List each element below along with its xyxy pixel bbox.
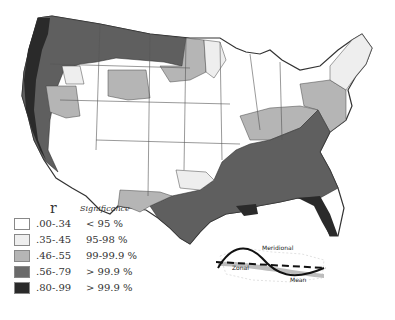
legend-significance-label: Significance [80, 204, 130, 213]
meridional-flow-line [218, 249, 324, 276]
legend-row: .35-.45 95-98 % [14, 234, 144, 250]
legend-row: .46-.55 99-99.9 % [14, 250, 144, 266]
legend-range: .56-.79 [36, 266, 71, 277]
legend-significance: 99-99.9 % [86, 250, 137, 261]
legend-significance: > 99.9 % [86, 266, 133, 277]
region-new-england-light [330, 34, 372, 90]
legend-range: .35-.45 [36, 234, 71, 245]
meridional-label: Meridional [262, 244, 294, 251]
flow-pattern-inset: Meridional Zonal Mean [212, 238, 330, 288]
legend-significance: 95-98 % [86, 234, 128, 245]
legend-range: .80-.99 [36, 282, 71, 293]
legend-swatch [14, 266, 30, 278]
legend-significance: > 99.9 % [86, 282, 133, 293]
legend-significance: < 95 % [86, 218, 123, 229]
zonal-label: Zonal [232, 264, 249, 271]
legend-swatch [14, 234, 30, 246]
legend-swatch [14, 250, 30, 262]
legend-row: .56-.79 > 99.9 % [14, 266, 144, 282]
legend-range: .46-.55 [36, 250, 71, 261]
legend-swatch [14, 218, 30, 230]
legend-swatch [14, 282, 30, 294]
region-idaho-light [62, 66, 84, 84]
mean-label: Mean [290, 276, 307, 283]
region-gulf-black [236, 204, 258, 216]
region-wyoming-medium [108, 70, 150, 100]
legend-row: .00-.34 < 95 % [14, 218, 144, 234]
legend-r-label: r [50, 200, 57, 216]
legend-range: .00-.34 [36, 218, 71, 229]
legend-row: .80-.99 > 99.9 % [14, 282, 144, 298]
